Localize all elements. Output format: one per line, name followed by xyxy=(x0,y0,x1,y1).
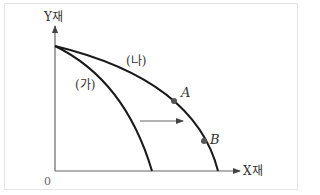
point-label-a: A xyxy=(181,86,190,99)
point-b xyxy=(201,138,207,144)
point-label-b: B xyxy=(210,133,220,146)
y-axis-label: Y재 xyxy=(44,11,63,23)
curve-label-ga: (가) xyxy=(75,79,95,91)
origin-label: 0 xyxy=(44,176,51,187)
x-axis-label: X재 xyxy=(243,165,263,177)
point-a xyxy=(171,98,177,104)
curve-label-na: (나) xyxy=(126,55,146,67)
